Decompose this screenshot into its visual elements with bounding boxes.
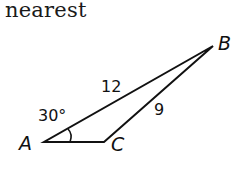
triangle-diagram: A C B 12 9 30° <box>0 0 232 177</box>
side-label-ab: 12 <box>101 77 121 96</box>
vertex-label-c: C <box>111 133 125 155</box>
vertex-label-a: A <box>17 132 32 154</box>
side-label-bc: 9 <box>154 100 164 119</box>
angle-arc-a <box>68 129 71 142</box>
triangle-abc <box>44 46 213 142</box>
vertex-label-b: B <box>218 32 231 54</box>
angle-label-a: 30° <box>38 106 66 125</box>
triangle-outline <box>44 46 213 142</box>
